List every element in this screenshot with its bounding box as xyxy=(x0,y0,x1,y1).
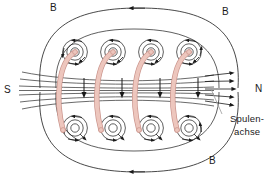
label-coil-axis-line2: achse xyxy=(234,126,260,137)
label-pole-north: N xyxy=(255,83,262,94)
field-rings-bottom xyxy=(63,116,202,141)
label-b-top-right: B xyxy=(222,6,229,17)
label-b-top-left: B xyxy=(50,2,57,13)
coil-axis-leader-line xyxy=(211,89,222,114)
axial-field-lines xyxy=(19,72,214,109)
label-coil-axis-line1: Spulen- xyxy=(230,113,264,124)
figure-container: B B B S N Spulen- achse xyxy=(0,0,278,180)
label-b-bottom: B xyxy=(209,155,216,166)
label-pole-south: S xyxy=(4,84,11,95)
north-pole-arrows xyxy=(205,73,234,105)
magnetic-field-diagram xyxy=(0,0,278,180)
